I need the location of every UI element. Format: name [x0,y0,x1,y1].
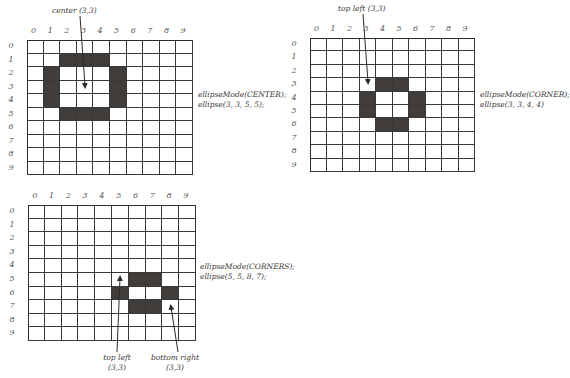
grid-cell [93,148,110,162]
grid-cell [62,314,79,328]
grid-cell [27,54,44,68]
grid-cell [110,162,127,176]
grid-cell [127,135,144,149]
grid-cell [45,287,62,301]
grid-cell [393,65,410,78]
grid-cell [176,135,193,149]
column-label: 1 [328,24,338,33]
grid-cell [327,78,344,91]
filled-cell [360,92,377,105]
grid-cell [78,273,95,287]
grid-cell [143,121,160,135]
grid-cell [179,232,196,246]
row-label: 0 [5,41,17,50]
column-label: 6 [130,191,140,200]
filled-cell [376,118,393,131]
column-label: 8 [164,191,174,200]
grid-cell [62,300,79,314]
grid-cell [127,54,144,68]
grid-cell [310,132,327,145]
grid-cell [45,205,62,219]
grid-cell [27,121,44,135]
grid-cell [160,162,177,176]
grid-cell [45,259,62,273]
filled-cell [393,78,410,91]
row-label: 5 [288,106,300,115]
grid-cell [44,121,61,135]
grid-cell [127,121,144,135]
grid-cell [310,145,327,158]
grid-cell [360,145,377,158]
grid-cell [160,135,177,149]
row-label: 1 [5,55,17,64]
grid-cell [160,108,177,122]
grid-cell [112,314,129,328]
grid-cell [176,54,193,68]
grid-cell [146,232,163,246]
grid-cell [28,273,45,287]
annotation-coords: (3,3) [102,363,132,373]
grid-cell [27,40,44,54]
grid-cell [129,246,146,260]
grid-cell [95,259,112,273]
column-label: 9 [460,24,470,33]
grid-cell [459,159,476,172]
grid-cell [376,159,393,172]
grid-cell [112,205,129,219]
column-label: 7 [147,191,157,200]
grid-cell [62,232,79,246]
column-label: 3 [78,26,88,35]
grid-cell [310,118,327,131]
row-label: 6 [5,122,17,131]
grid-cell [27,162,44,176]
grid-cell [343,38,360,51]
filled-cell [93,54,110,68]
grid-cell [409,38,426,51]
row-label: 9 [6,328,18,337]
grid-cell [393,145,410,158]
grid-cell [27,108,44,122]
grid-cell [343,132,360,145]
grid-cell [127,81,144,95]
grid-cell [143,81,160,95]
grid-cell [360,159,377,172]
grid-cell [393,51,410,64]
grid-cell [112,232,129,246]
grid-cell [146,246,163,260]
grid-cell [112,259,129,273]
grid-cell [62,327,79,341]
row-label: 8 [5,149,17,158]
grid-cell [310,105,327,118]
grid-cell [343,105,360,118]
row-label: 5 [6,274,18,283]
grid-cell [45,327,62,341]
grid-cell [77,121,94,135]
grid-cell [426,159,443,172]
grid-cell [409,118,426,131]
grid-cell [28,205,45,219]
grid-cell [343,51,360,64]
grid-cell [409,132,426,145]
grid-cell [160,67,177,81]
grid-cell [459,38,476,51]
grid-cell [110,148,127,162]
grid-cell [360,78,377,91]
grid-cell [176,40,193,54]
grid-cell [393,92,410,105]
filled-cell [409,105,426,118]
grid-cell [62,273,79,287]
annotation-text: bottom right [150,353,200,363]
grid-cell [327,118,344,131]
filled-cell [360,105,377,118]
column-label: 5 [112,26,122,35]
row-label: 1 [6,220,18,229]
grid-cell [376,38,393,51]
grid-cell [442,145,459,158]
grid-cell [95,314,112,328]
grid-cell [360,51,377,64]
grid-cell [77,40,94,54]
filled-cell [44,67,61,81]
grid-cell [160,40,177,54]
grid-cell [179,246,196,260]
grid-cell [60,94,77,108]
